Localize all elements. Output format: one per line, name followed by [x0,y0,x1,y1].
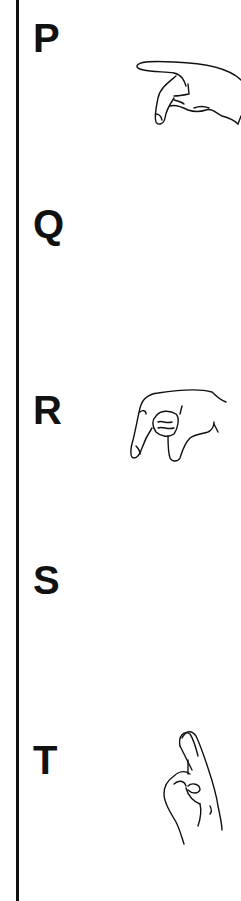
letter-label: S [33,560,60,600]
letter-label: Q [33,204,64,244]
entry-p: P [0,0,241,180]
hand-sign-p-icon [134,58,241,130]
entry-t: T [0,720,241,900]
letter-label: P [33,18,60,58]
entry-q: Q [0,180,241,360]
letter-label: R [33,390,62,430]
entry-r: R [0,360,241,540]
letter-label: T [33,740,57,780]
entry-s: S [0,540,241,720]
